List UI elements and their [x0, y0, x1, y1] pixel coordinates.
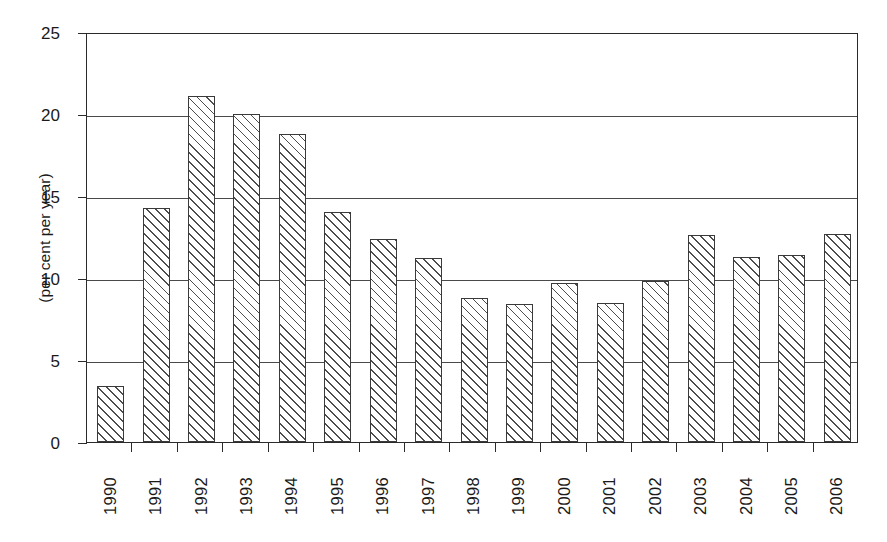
bar	[370, 239, 397, 442]
x-axis-tick-label: 1998	[466, 455, 480, 515]
bar	[97, 386, 124, 442]
bar	[733, 257, 760, 442]
y-axis-tick-label: 0	[26, 435, 60, 452]
x-axis-tick	[177, 443, 178, 452]
x-axis-tick-label: 2002	[648, 455, 662, 515]
x-axis-tick-label: 1997	[421, 455, 435, 515]
bar-chart: (per cent per year) 0510152025 199019911…	[0, 0, 887, 542]
x-axis-tick-label: 2005	[784, 455, 798, 515]
y-axis-tick-label: 15	[26, 189, 60, 206]
bar	[415, 258, 442, 442]
bar	[778, 255, 805, 442]
x-axis-tick	[813, 443, 814, 452]
bar	[233, 114, 260, 442]
y-axis-tick	[78, 279, 87, 280]
x-axis-tick	[222, 443, 223, 452]
x-axis-tick-label: 2000	[557, 455, 571, 515]
y-axis-tick-labels: 0510152025	[22, 0, 60, 542]
x-axis-tick	[540, 443, 541, 452]
x-axis-tick	[359, 443, 360, 452]
bar	[506, 304, 533, 442]
x-axis-tick	[268, 443, 269, 452]
x-axis-tick-label: 2004	[739, 455, 753, 515]
bar	[597, 303, 624, 442]
y-axis-tick-label: 20	[26, 107, 60, 124]
bar	[551, 283, 578, 442]
bar	[461, 298, 488, 442]
bar	[642, 281, 669, 442]
bar	[824, 234, 851, 442]
bar	[279, 134, 306, 442]
x-axis-tick	[767, 443, 768, 452]
y-axis-tick	[78, 443, 87, 444]
x-axis-tick-label: 1993	[239, 455, 253, 515]
x-axis-tick	[449, 443, 450, 452]
x-axis-tick	[131, 443, 132, 452]
x-axis-tick	[313, 443, 314, 452]
y-axis-tick	[78, 115, 87, 116]
x-axis-tick	[586, 443, 587, 452]
x-axis-tick-label: 1995	[330, 455, 344, 515]
x-axis-tick-label: 1992	[194, 455, 208, 515]
x-axis-tick	[404, 443, 405, 452]
x-axis-tick-label: 1996	[375, 455, 389, 515]
y-axis-tick-label: 25	[26, 25, 60, 42]
x-axis-tick	[676, 443, 677, 452]
x-axis-tick-label: 1999	[511, 455, 525, 515]
bar	[143, 208, 170, 443]
x-axis-tick-label: 2003	[693, 455, 707, 515]
plot-area	[86, 33, 858, 443]
y-axis-tick	[78, 197, 87, 198]
x-axis-tick-label: 1990	[103, 455, 117, 515]
x-axis-tick-label: 2006	[829, 455, 843, 515]
bar	[188, 96, 215, 442]
y-axis-tick	[78, 361, 87, 362]
bar	[688, 235, 715, 442]
bar	[324, 212, 351, 442]
x-axis-tick	[495, 443, 496, 452]
y-axis-tick	[78, 33, 87, 34]
x-axis-tick-label: 1991	[148, 455, 162, 515]
y-axis-tick-label: 5	[26, 353, 60, 370]
y-axis-tick-label: 10	[26, 271, 60, 288]
x-axis-tick	[722, 443, 723, 452]
x-axis-tick	[631, 443, 632, 452]
x-axis-tick-label: 2001	[602, 455, 616, 515]
x-axis-tick-label: 1994	[284, 455, 298, 515]
